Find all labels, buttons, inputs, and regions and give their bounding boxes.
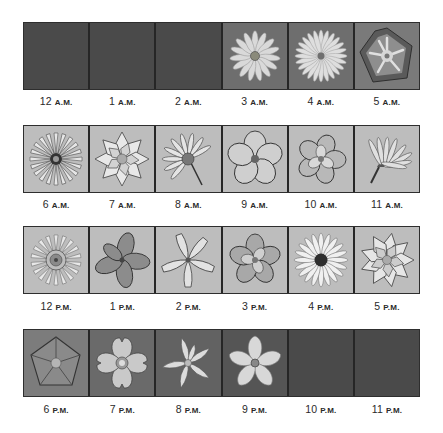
clock-row-1 xyxy=(23,22,420,90)
clock-row-4 xyxy=(23,329,420,397)
time-label: 4 A.M. xyxy=(288,95,354,107)
rose-like-icon xyxy=(225,230,285,290)
time-label: 3 A.M. xyxy=(222,95,288,107)
labels-row-2: 6 A.M. 7 A.M. 8 A.M. 9 A.M. 10 A.M. 11 A… xyxy=(23,198,420,210)
labels-row-4: 6 P.M. 7 P.M. 8 P.M. 9 P.M. 10 P.M. 11 P… xyxy=(23,403,420,415)
morning-glory-icon xyxy=(356,25,418,87)
time-label: 1 A.M. xyxy=(89,95,155,107)
time-label: 6 A.M. xyxy=(23,198,89,210)
time-label: 2 A.M. xyxy=(155,95,221,107)
water-lily-icon xyxy=(92,129,152,189)
time-label: 3 P.M. xyxy=(222,300,288,312)
cell-4pm xyxy=(289,227,355,293)
cell-10pm xyxy=(289,330,355,396)
cell-9am xyxy=(223,126,289,192)
daisy-like-icon xyxy=(228,26,282,86)
four-petal-icon xyxy=(92,230,152,290)
time-label: 9 A.M. xyxy=(222,198,288,210)
cell-9pm xyxy=(223,330,289,396)
cell-3am xyxy=(223,23,289,89)
time-label: 8 A.M. xyxy=(155,198,221,210)
cell-2am xyxy=(156,23,222,89)
labels-row-3: 12 P.M. 1 P.M. 2 P.M. 3 P.M. 4 P.M. 5 P.… xyxy=(23,300,420,312)
time-label: 7 P.M. xyxy=(89,403,155,415)
cell-1am xyxy=(90,23,156,89)
lily-icon xyxy=(158,333,218,393)
time-label: 11 A.M. xyxy=(354,198,420,210)
five-petal-icon xyxy=(225,129,285,189)
cell-5am xyxy=(355,23,419,89)
cell-7pm xyxy=(90,330,156,396)
time-label: 6 P.M. xyxy=(23,403,89,415)
cell-3pm xyxy=(223,227,289,293)
star-lily-icon xyxy=(158,230,218,290)
dandelion-icon xyxy=(26,129,86,189)
daisy-icon xyxy=(291,230,351,290)
rose-like-icon xyxy=(291,129,351,189)
star-flower-icon xyxy=(225,333,285,393)
time-label: 12 P.M. xyxy=(23,300,89,312)
cell-11pm xyxy=(355,330,419,396)
cell-2pm xyxy=(156,227,222,293)
time-label: 10 A.M. xyxy=(288,198,354,210)
time-label: 9 P.M. xyxy=(222,403,288,415)
cell-8am xyxy=(156,126,222,192)
clock-row-3 xyxy=(23,226,420,294)
time-label: 5 A.M. xyxy=(354,95,420,107)
time-label: 8 P.M. xyxy=(155,403,221,415)
primrose-icon xyxy=(92,333,152,393)
time-label: 12 A.M. xyxy=(23,95,89,107)
cell-6pm xyxy=(24,330,90,396)
morning-glory-icon xyxy=(26,333,86,393)
time-label: 11 P.M. xyxy=(354,403,420,415)
dandelion-like-icon xyxy=(292,26,350,86)
cell-8pm xyxy=(156,330,222,396)
time-label: 1 P.M. xyxy=(89,300,155,312)
time-label: 5 P.M. xyxy=(354,300,420,312)
dandelion-icon xyxy=(26,230,86,290)
hawkweed-icon xyxy=(158,129,218,189)
clock-row-2 xyxy=(23,125,420,193)
cell-4am xyxy=(289,23,355,89)
side-view-daisy-icon xyxy=(357,129,417,189)
cell-1pm xyxy=(90,227,156,293)
cell-7am xyxy=(90,126,156,192)
cell-12am xyxy=(24,23,90,89)
time-label: 7 A.M. xyxy=(89,198,155,210)
cell-12pm xyxy=(24,227,90,293)
labels-row-1: 12 A.M. 1 A.M. 2 A.M. 3 A.M. 4 A.M. 5 A.… xyxy=(23,95,420,107)
time-label: 2 P.M. xyxy=(155,300,221,312)
time-label: 10 P.M. xyxy=(288,403,354,415)
cell-10am xyxy=(289,126,355,192)
water-lily-icon xyxy=(357,230,417,290)
cell-5pm xyxy=(355,227,419,293)
cell-11am xyxy=(355,126,419,192)
cell-6am xyxy=(24,126,90,192)
time-label: 4 P.M. xyxy=(288,300,354,312)
